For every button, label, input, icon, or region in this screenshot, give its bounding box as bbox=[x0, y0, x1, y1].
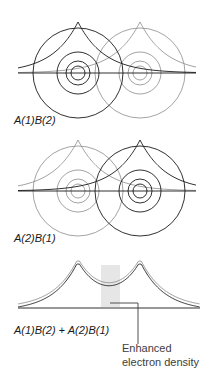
annotation-line-1: Enhanced bbox=[122, 342, 172, 354]
panel-label-a1b2: A(1)B(2) bbox=[13, 114, 56, 126]
panel-label-sum: A(1)B(2) + A(2)B(1) bbox=[13, 324, 110, 336]
diagram-canvas: A(1)B(2) A(2)B(1) A(1)B(2) + A(2)B(1) En… bbox=[0, 0, 216, 380]
panel-label-a2b1: A(2)B(1) bbox=[13, 232, 56, 244]
annotation-line-2: electron density bbox=[122, 356, 200, 368]
